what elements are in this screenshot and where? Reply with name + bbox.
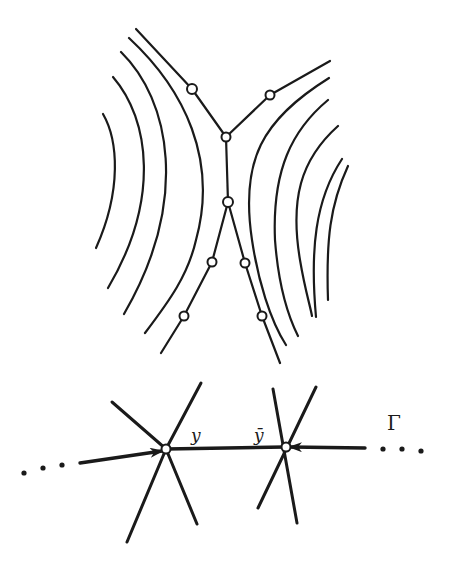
- vertex-ybar: [282, 443, 291, 452]
- label-y-bar: ȳ: [253, 425, 264, 445]
- left-ellipsis: [21, 462, 64, 475]
- path-node: [266, 91, 275, 100]
- diagram-canvas: y ȳ Γ: [0, 0, 450, 574]
- junction-node-top: [222, 133, 231, 142]
- label-gamma: Γ: [387, 411, 401, 435]
- path-node: [208, 258, 217, 267]
- vertex-y-star: [112, 383, 201, 542]
- path-node: [180, 312, 189, 321]
- junction-node-bottom: [223, 197, 233, 207]
- path-node: [187, 84, 197, 94]
- right-ellipsis: [380, 446, 423, 453]
- vertex-y: [162, 445, 171, 454]
- label-y: y: [190, 425, 201, 445]
- path-node: [258, 312, 267, 321]
- path-node: [241, 259, 250, 268]
- edge-y: [166, 447, 285, 449]
- vertex-ybar-star: [258, 387, 316, 523]
- level-curves-right: [249, 78, 348, 345]
- incoming-edge-left: [80, 451, 162, 463]
- incoming-edge-right: [290, 447, 365, 448]
